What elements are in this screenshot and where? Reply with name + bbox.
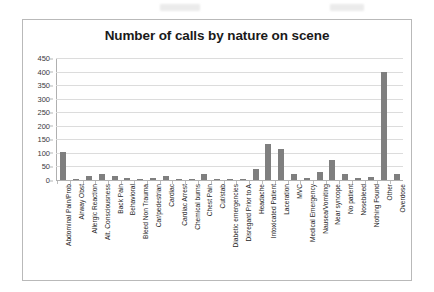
bar-slot [313,58,326,180]
y-axis-tick-label: 200 [37,121,50,130]
bar-slot [390,58,403,180]
y-axis: 450400350300250200150100500 [23,58,53,180]
y-axis-tick-label: 450 [37,54,50,63]
x-axis-tick-mark [57,181,58,184]
x-axis-tick-mark [185,181,186,184]
y-axis-tick-label: 100 [37,148,50,157]
bar-slot [57,58,70,180]
x-axis-tick-mark [147,181,148,184]
x-axis-tick-mark [70,181,71,184]
bar-slot [198,58,211,180]
x-axis-tick: Nothing Found [365,181,378,276]
x-axis-tick: Allergic Reaction [83,181,96,276]
y-axis-tick-label: 300 [37,94,50,103]
x-axis-tick: Chest Pain [198,181,211,276]
x-axis-tick-mark [121,181,122,184]
bar [112,176,118,180]
scan-artifact-top-left [160,4,200,11]
y-axis-tick-mark [50,72,53,73]
plot-area [56,58,403,180]
bar-series [57,58,403,180]
bar [355,178,361,180]
bar-slot [121,58,134,180]
y-axis-tick-mark [50,99,53,100]
bar-slot [211,58,224,180]
bar [99,174,105,180]
x-axis-tick-mark [262,181,263,184]
bar-slot [224,58,237,180]
bar [240,179,246,180]
bar-slot [326,58,339,180]
x-axis-tick-mark [300,181,301,184]
bar [73,179,79,180]
x-axis-tick-mark [288,181,289,184]
x-axis-tick: Disregard Prior to A [236,181,249,276]
x-axis-tick: Cut/stab [211,181,224,276]
x-axis: Abdominal Pain/ProbAirway ObstAllergic R… [57,181,403,276]
bar [60,152,66,180]
x-axis-tick-mark [249,181,250,184]
bar [201,174,207,180]
bar [329,160,335,180]
bar-slot [70,58,83,180]
bar [214,179,220,180]
y-axis-tick-mark [50,180,53,181]
x-axis-tick: Behavioral [121,181,134,276]
bar [394,174,400,180]
x-axis-tick: No patient [339,181,352,276]
bar-slot [95,58,108,180]
x-axis-tick: Bleed Non Trauma [134,181,147,276]
y-axis-tick-label: 50 [42,162,50,171]
chart-container: Number of calls by nature on scene 45040… [22,19,412,281]
bar-slot [172,58,185,180]
bar-slot [352,58,365,180]
bar-slot [185,58,198,180]
bar-slot [108,58,121,180]
bar [304,178,310,180]
x-axis-tick-mark [172,181,173,184]
x-axis-tick-mark [198,181,199,184]
bar [253,169,259,180]
bar-slot [339,58,352,180]
y-axis-tick-mark [50,153,53,154]
bar-slot [288,58,301,180]
scan-artifact-top-right [330,4,364,11]
x-axis-tick: Alt. Consciousness [95,181,108,276]
x-axis-tick: Diabetic emergencies [224,181,237,276]
bar [227,179,233,180]
x-axis-tick-mark [326,181,327,184]
bar [86,176,92,180]
bar-slot [377,58,390,180]
x-axis-tick: Car/pedestrian [147,181,160,276]
x-axis-tick-mark [339,181,340,184]
bar-slot [83,58,96,180]
x-axis-tick-mark [211,181,212,184]
x-axis-tick-mark [377,181,378,184]
x-axis-tick-mark [275,181,276,184]
y-axis-tick-mark [50,166,53,167]
bar [150,178,156,180]
x-axis-tick-mark [95,181,96,184]
bar-slot [134,58,147,180]
x-axis-tick: Nosebleed [352,181,365,276]
bar-slot [147,58,160,180]
x-axis-tick-mark [390,181,391,184]
x-axis-tick: Near syncope [326,181,339,276]
bar-slot [249,58,262,180]
bar [278,149,284,180]
x-axis-tick-mark [313,181,314,184]
x-axis-tick: Other [377,181,390,276]
x-axis-tick: Airway Obst [70,181,83,276]
x-axis-tick: Medical Emergency [300,181,313,276]
x-axis-tick: Nausea/Vomiting [313,181,326,276]
y-axis-tick-label: 0 [46,176,50,185]
x-axis-tick-mark [83,181,84,184]
bar [317,172,323,180]
bar-slot [160,58,173,180]
y-axis-tick-mark [50,112,53,113]
bar [265,144,271,180]
x-axis-tick-mark [134,181,135,184]
bar-slot [365,58,378,180]
y-axis-tick-mark [50,126,53,127]
bar [189,179,195,180]
